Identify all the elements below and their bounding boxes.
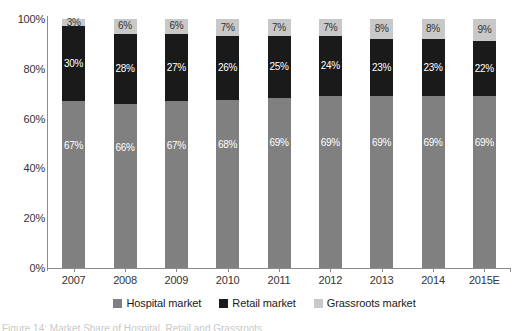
bar-segment-label: 66% — [115, 143, 134, 153]
bar-segment-retail[interactable]: 28% — [114, 34, 137, 104]
bar-group[interactable]: 6%28%66% — [114, 19, 137, 268]
x-axis-label: 2009 — [164, 274, 188, 286]
bar-segment-label: 27% — [167, 63, 186, 73]
bar-segment-label: 28% — [115, 64, 134, 74]
bar-segment-grassroots[interactable]: 8% — [422, 19, 445, 39]
x-axis-label: 2015E — [469, 274, 500, 286]
x-axis-label: 2013 — [370, 274, 394, 286]
bar-segment-grassroots[interactable]: 7% — [216, 19, 239, 36]
bar-group[interactable]: 6%27%67% — [165, 19, 188, 268]
bar-segment-hospital[interactable]: 69% — [268, 98, 291, 268]
bar-segment-label: 69% — [423, 138, 442, 148]
bar-segment-label: 69% — [269, 138, 288, 148]
bar-segment-retail[interactable]: 23% — [370, 39, 393, 96]
bar-segment-label: 6% — [169, 21, 183, 31]
bar-segment-retail[interactable]: 24% — [319, 36, 342, 96]
bar-segment-label: 69% — [321, 138, 340, 148]
bar-group[interactable]: 7%24%69% — [319, 19, 342, 268]
bar-segment-label: 22% — [475, 64, 494, 74]
plot-area: 0%20%40%60%80%100%3%30%67%6%28%66%6%27%6… — [48, 19, 510, 268]
bar-group[interactable]: 9%22%69% — [473, 19, 496, 268]
bar-segment-hospital[interactable]: 67% — [62, 101, 85, 268]
bar-segment-hospital[interactable]: 69% — [319, 96, 342, 268]
legend-item-retail[interactable]: Retail market — [219, 297, 296, 309]
bar-segment-label: 6% — [118, 21, 132, 31]
bar-segment-hospital[interactable]: 67% — [165, 101, 188, 268]
bar-segment-grassroots[interactable]: 7% — [268, 19, 291, 36]
legend-label: Hospital market — [126, 297, 201, 309]
bar-segment-label: 69% — [475, 138, 494, 148]
bar-group[interactable]: 8%23%69% — [422, 19, 445, 268]
bar-segment-label: 25% — [269, 62, 288, 72]
bar-segment-label: 8% — [426, 24, 440, 34]
bar-segment-retail[interactable]: 22% — [473, 41, 496, 96]
bar-segment-hospital[interactable]: 69% — [473, 96, 496, 268]
legend-swatch-grassroots — [314, 299, 323, 308]
x-axis-label: 2011 — [268, 274, 291, 286]
bar-segment-grassroots[interactable]: 6% — [114, 19, 137, 34]
bar-segment-label: 3% — [67, 18, 81, 28]
bar-segment-label: 67% — [64, 141, 83, 151]
bar-segment-hospital[interactable]: 66% — [114, 104, 137, 268]
x-axis-label: 2010 — [216, 274, 240, 286]
legend-label: Retail market — [232, 297, 296, 309]
bar-segment-label: 7% — [272, 23, 286, 33]
bar-segment-label: 68% — [218, 140, 237, 150]
bar-group[interactable]: 7%25%69% — [268, 19, 291, 268]
bar-segment-hospital[interactable]: 69% — [422, 96, 445, 268]
bar-segment-label: 23% — [423, 63, 442, 73]
bar-segment-label: 23% — [372, 63, 391, 73]
bar-segment-grassroots[interactable]: 8% — [370, 19, 393, 39]
bar-segment-label: 9% — [477, 25, 491, 35]
bar-segment-label: 24% — [321, 61, 340, 71]
bar-segment-hospital[interactable]: 68% — [216, 100, 239, 268]
bar-segment-label: 26% — [218, 63, 237, 73]
bar-group[interactable]: 3%30%67% — [62, 19, 85, 268]
bar-segment-retail[interactable]: 27% — [165, 34, 188, 101]
bar-segment-grassroots[interactable]: 9% — [473, 19, 496, 41]
x-axis-tick-mark — [382, 268, 383, 272]
x-axis-label: 2012 — [318, 274, 342, 286]
bar-group[interactable]: 7%26%68% — [216, 19, 239, 268]
legend-label: Grassroots market — [327, 297, 416, 309]
bar-segment-grassroots[interactable]: 3% — [62, 19, 85, 26]
bar-segment-grassroots[interactable]: 6% — [165, 19, 188, 34]
x-axis-tick-mark — [279, 268, 280, 272]
x-axis-tick-mark — [228, 268, 229, 272]
bar-segment-retail[interactable]: 26% — [216, 36, 239, 100]
bar-segment-label: 8% — [375, 24, 389, 34]
y-axis-tick-label: 80% — [24, 63, 48, 75]
legend-item-hospital[interactable]: Hospital market — [113, 297, 201, 309]
bar-segment-retail[interactable]: 23% — [422, 39, 445, 96]
bar-segment-label: 7% — [221, 23, 235, 33]
y-axis-tick-label: 20% — [24, 212, 48, 224]
x-axis-label: 2007 — [62, 274, 86, 286]
bar-segment-hospital[interactable]: 69% — [370, 96, 393, 268]
bar-segment-label: 7% — [323, 23, 337, 33]
x-axis-tick-mark — [484, 268, 485, 272]
y-axis-tick-label: 40% — [24, 162, 48, 174]
legend-swatch-hospital — [113, 299, 122, 308]
x-axis-end-tick-mark — [510, 268, 511, 272]
x-axis-label: 2008 — [113, 274, 137, 286]
bar-segment-label: 67% — [167, 141, 186, 151]
y-axis-tick-label: 0% — [30, 262, 49, 274]
legend-swatch-retail — [219, 299, 228, 308]
figure-caption: Figure 14: Market Share of Hospital, Ret… — [2, 323, 422, 331]
chart-figure: 0%20%40%60%80%100%3%30%67%6%28%66%6%27%6… — [0, 0, 529, 331]
legend-item-grassroots[interactable]: Grassroots market — [314, 297, 416, 309]
x-axis-tick-mark — [125, 268, 126, 272]
x-axis-tick-mark — [330, 268, 331, 272]
x-axis-tick-mark — [433, 268, 434, 272]
chart-legend: Hospital marketRetail marketGrassroots m… — [0, 297, 529, 309]
y-axis-tick-label: 100% — [18, 13, 48, 25]
x-axis-label: 2014 — [421, 274, 445, 286]
bar-segment-label: 30% — [64, 59, 83, 69]
bar-segment-retail[interactable]: 30% — [62, 26, 85, 101]
bar-segment-retail[interactable]: 25% — [268, 36, 291, 98]
x-axis-tick-mark — [74, 268, 75, 272]
bar-segment-label: 69% — [372, 138, 391, 148]
bar-segment-grassroots[interactable]: 7% — [319, 19, 342, 36]
y-axis-tick-label: 60% — [24, 113, 48, 125]
bar-group[interactable]: 8%23%69% — [370, 19, 393, 268]
